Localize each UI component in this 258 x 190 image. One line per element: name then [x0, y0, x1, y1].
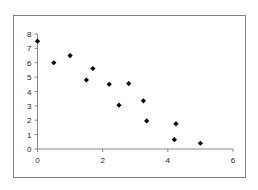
data-point-marker	[116, 103, 121, 108]
y-tick-label: 2	[27, 116, 32, 125]
data-point-marker	[67, 53, 72, 58]
data-point-marker	[141, 98, 146, 103]
data-point-marker	[51, 60, 56, 65]
data-point-marker	[84, 77, 89, 82]
data-point-marker	[173, 121, 178, 126]
x-tick-label: 4	[166, 156, 171, 165]
y-tick-label: 7	[27, 44, 32, 53]
data-point-marker	[144, 118, 149, 123]
scatter-plot: 0123456780246	[0, 0, 258, 190]
x-tick-label: 2	[100, 156, 105, 165]
y-tick-label: 1	[27, 131, 32, 140]
axes: 0123456780246	[27, 30, 236, 165]
y-tick-label: 4	[27, 88, 32, 97]
data-points	[35, 39, 203, 146]
data-point-marker	[107, 82, 112, 87]
x-tick-label: 0	[35, 156, 40, 165]
data-point-marker	[35, 39, 40, 44]
y-tick-label: 0	[27, 145, 32, 154]
y-tick-label: 8	[27, 30, 32, 39]
y-tick-label: 3	[27, 102, 32, 111]
x-tick-label: 6	[231, 156, 236, 165]
y-tick-label: 6	[27, 59, 32, 68]
y-tick-label: 5	[27, 73, 32, 82]
data-point-marker	[198, 141, 203, 146]
data-point-marker	[90, 66, 95, 71]
data-point-marker	[126, 81, 131, 86]
data-point-marker	[172, 137, 177, 142]
